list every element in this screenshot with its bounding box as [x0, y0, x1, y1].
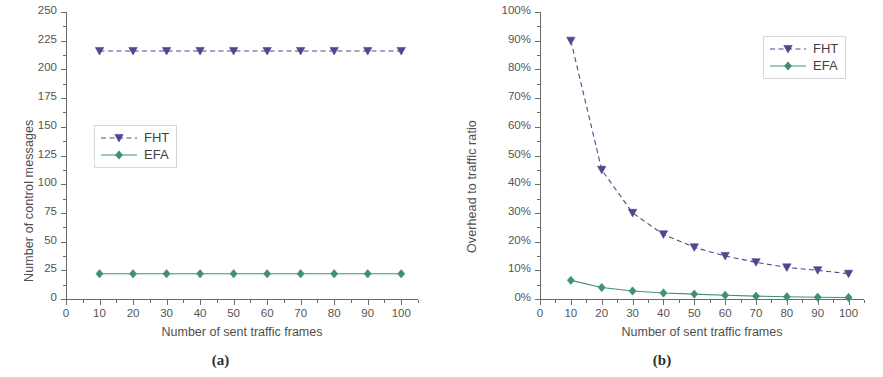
- y-minor-tick: [537, 170, 540, 171]
- data-point-efa: [567, 276, 574, 284]
- y-minor-tick: [537, 141, 540, 142]
- x-tick-label: 100: [829, 307, 869, 319]
- y-tick: [61, 184, 66, 185]
- y-tick-label: 150: [11, 119, 57, 131]
- data-point-efa: [398, 270, 405, 278]
- data-point-fht: [95, 47, 103, 55]
- y-tick-label: 70%: [485, 90, 531, 102]
- y-minor-tick: [537, 26, 540, 27]
- y-tick-label: 90%: [485, 33, 531, 45]
- data-point-fht: [263, 47, 271, 55]
- x-minor-tick: [116, 300, 117, 303]
- y-tick-label: 100: [11, 176, 57, 188]
- x-minor-tick: [586, 300, 587, 303]
- y-minor-tick: [63, 227, 66, 228]
- figure-row: Number of control messages 0255075100125…: [0, 0, 883, 377]
- x-minor-tick: [351, 300, 352, 303]
- legend-entry-efa: EFA: [769, 57, 838, 74]
- y-tick: [535, 156, 540, 157]
- x-tick: [849, 300, 850, 305]
- y-minor-tick: [537, 84, 540, 85]
- x-tick: [663, 300, 664, 305]
- legend-entry-efa: EFA: [100, 146, 169, 163]
- y-minor-tick: [63, 26, 66, 27]
- x-tick: [602, 300, 603, 305]
- data-point-fht: [330, 47, 338, 55]
- y-tick-label: 250: [11, 4, 57, 16]
- x-tick: [694, 300, 695, 305]
- x-minor-tick: [833, 300, 834, 303]
- y-minor-tick: [63, 84, 66, 85]
- x-minor-tick: [384, 300, 385, 303]
- x-minor-tick: [250, 300, 251, 303]
- y-tick: [61, 270, 66, 271]
- y-tick: [535, 12, 540, 13]
- data-point-fht: [598, 166, 606, 174]
- legend-label-fht: FHT: [807, 42, 838, 56]
- x-minor-tick: [771, 300, 772, 303]
- y-tick: [61, 213, 66, 214]
- data-point-efa: [230, 270, 237, 278]
- y-minor-tick: [63, 285, 66, 286]
- y-tick-label: 225: [11, 33, 57, 45]
- y-tick-label: 60%: [485, 119, 531, 131]
- y-tick-label: 200: [11, 61, 57, 73]
- y-tick-label: 40%: [485, 176, 531, 188]
- data-point-fht: [296, 47, 304, 55]
- x-minor-tick: [710, 300, 711, 303]
- legend-label-efa: EFA: [807, 59, 838, 73]
- y-tick: [535, 98, 540, 99]
- data-point-fht: [364, 47, 372, 55]
- x-tick: [133, 300, 134, 305]
- legend-marker-efa-icon: [769, 59, 807, 73]
- data-point-fht: [628, 209, 636, 217]
- y-tick: [535, 242, 540, 243]
- x-tick: [571, 300, 572, 305]
- data-point-fht: [129, 47, 137, 55]
- x-tick: [167, 300, 168, 305]
- x-minor-tick: [741, 300, 742, 303]
- y-axis-label-b: Overhead to traffic ratio: [465, 120, 479, 253]
- x-minor-tick: [183, 300, 184, 303]
- x-minor-tick: [802, 300, 803, 303]
- x-minor-tick: [150, 300, 151, 303]
- x-minor-tick: [679, 300, 680, 303]
- data-point-fht: [659, 231, 667, 239]
- y-minor-tick: [537, 285, 540, 286]
- data-point-fht: [397, 47, 405, 55]
- y-minor-tick: [537, 199, 540, 200]
- x-tick: [756, 300, 757, 305]
- legend-b: FHT EFA: [763, 36, 846, 79]
- y-axis-line: [66, 12, 67, 299]
- data-point-efa: [197, 270, 204, 278]
- y-tick-label: 0: [11, 291, 57, 303]
- y-minor-tick: [537, 55, 540, 56]
- x-tick: [200, 300, 201, 305]
- y-tick: [61, 69, 66, 70]
- y-minor-tick: [537, 256, 540, 257]
- y-tick: [61, 12, 66, 13]
- y-tick: [535, 213, 540, 214]
- series-line-efa: [571, 280, 849, 297]
- panel-caption-a: (a): [0, 352, 441, 369]
- legend-entry-fht: FHT: [769, 40, 838, 57]
- data-point-efa: [629, 287, 636, 295]
- data-point-efa: [691, 290, 698, 298]
- x-minor-tick: [648, 300, 649, 303]
- y-axis-label-a: Number of control messages: [22, 120, 36, 282]
- data-point-fht: [814, 267, 822, 275]
- x-minor-tick: [864, 300, 865, 303]
- x-tick: [633, 300, 634, 305]
- y-tick: [535, 184, 540, 185]
- data-point-fht: [690, 244, 698, 252]
- y-minor-tick: [63, 170, 66, 171]
- y-tick-label: 30%: [485, 205, 531, 217]
- x-minor-tick: [418, 300, 419, 303]
- y-tick-label: 125: [11, 148, 57, 160]
- x-tick: [66, 300, 67, 305]
- x-tick: [540, 300, 541, 305]
- y-tick: [61, 98, 66, 99]
- y-minor-tick: [63, 199, 66, 200]
- x-tick: [787, 300, 788, 305]
- data-point-efa: [364, 270, 371, 278]
